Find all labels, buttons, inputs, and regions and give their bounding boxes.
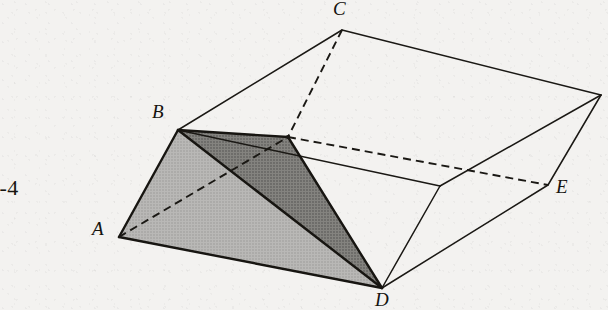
- edge-D-H: [382, 186, 440, 288]
- vertex-label-E: E: [556, 176, 568, 198]
- edge-F-E-hidden: [288, 137, 548, 185]
- shaded-faces-group: [119, 130, 382, 288]
- edge-C-G: [342, 30, 601, 95]
- edge-H-G: [440, 95, 601, 186]
- vertex-label-D: D: [375, 289, 389, 310]
- edge-D-E: [382, 185, 548, 288]
- geometric-figure-diagram: [0, 0, 608, 310]
- vertex-label-A: A: [92, 218, 104, 240]
- figure-page: A B C D E 3-4: [0, 0, 608, 310]
- figure-number-label: 3-4: [0, 175, 19, 201]
- vertex-label-C: C: [333, 0, 346, 20]
- vertex-label-B: B: [152, 101, 164, 123]
- edge-G-E: [548, 95, 601, 185]
- vertex-node-F: [286, 135, 290, 139]
